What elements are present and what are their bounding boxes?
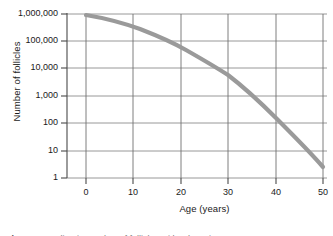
xtick-label-30: 30 <box>213 188 243 197</box>
ytick-label-100: 100 <box>0 118 58 127</box>
ytick-label-1000: 1,000 <box>0 91 58 100</box>
xtick-label-10: 10 <box>118 188 148 197</box>
caption-figure-number: Fig. 13.1 <box>6 234 42 236</box>
ytick-label-1: 1 <box>0 173 58 182</box>
ytick-label-10000: 10,000 <box>0 63 58 72</box>
figure-caption: Fig. 13.1 Decline in number of follicles… <box>6 229 326 236</box>
xtick-label-50: 50 <box>308 188 333 197</box>
y-axis-ticks <box>61 14 67 178</box>
horizontal-gridlines <box>67 14 327 178</box>
x-axis-ticks <box>86 178 323 184</box>
follicle-curve <box>86 15 323 167</box>
caption-body: Decline in number of follicles with adva… <box>45 234 239 236</box>
y-axis-title: Number of follicles <box>11 22 22 142</box>
ytick-label-10: 10 <box>0 146 58 155</box>
ytick-label-1000000: 1,000,000 <box>0 9 58 18</box>
xtick-label-0: 0 <box>71 188 101 197</box>
xtick-label-20: 20 <box>166 188 196 197</box>
ytick-label-100000: 100,000 <box>0 36 58 45</box>
x-axis-title: Age (years) <box>86 203 323 214</box>
xtick-label-40: 40 <box>261 188 291 197</box>
figure-container: 1,000,000 100,000 10,000 1,000 100 10 1 … <box>0 0 333 236</box>
